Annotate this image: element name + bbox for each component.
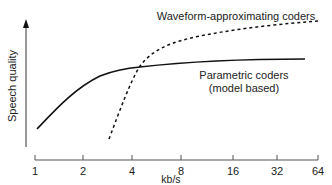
- y-axis-label: Speech quality: [6, 49, 18, 122]
- x-tick-2: 2: [80, 165, 86, 177]
- x-tick-64: 64: [312, 165, 324, 177]
- parametric-coders-label: Parametric coders: [199, 69, 289, 81]
- x-tick-32: 32: [271, 165, 283, 177]
- speech-quality-chart: 1 2 4 8 16 32 64 kb/s Speech quality Wav…: [0, 0, 332, 185]
- waveform-coders-label: Waveform-approximating coders: [157, 10, 316, 22]
- x-axis-label: kb/s: [161, 173, 180, 185]
- parametric-coders-sublabel: (model based): [209, 82, 279, 94]
- x-tick-4: 4: [129, 165, 135, 177]
- x-tick-16: 16: [227, 165, 239, 177]
- x-tick-1: 1: [32, 165, 38, 177]
- x-axis-ticks: [35, 155, 318, 160]
- y-axis-arrow-icon: [23, 19, 29, 28]
